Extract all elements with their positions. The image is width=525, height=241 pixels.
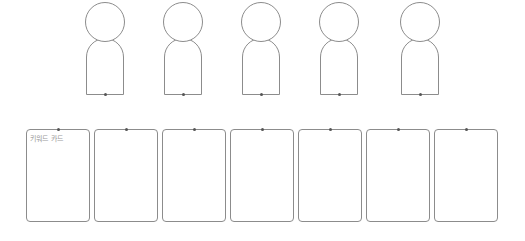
figure-head [85,2,125,42]
keyword-card-2[interactable] [94,129,158,222]
connection-point[interactable] [57,128,60,131]
keyword-card-5[interactable] [298,129,362,222]
person-figure-2[interactable] [160,0,206,98]
connection-point[interactable] [261,128,264,131]
connection-point[interactable] [260,93,263,96]
figure-body [401,38,439,95]
figure-body [86,38,124,95]
connection-point[interactable] [125,128,128,131]
figure-body [164,38,202,95]
figure-head [163,2,203,42]
figure-head [319,2,359,42]
figure-head [400,2,440,42]
connection-point[interactable] [193,128,196,131]
keyword-card-4[interactable] [230,129,294,222]
person-figure-3[interactable] [238,0,284,98]
keyword-card-1[interactable]: 키워드 카드 [26,129,90,222]
connection-point[interactable] [329,128,332,131]
figure-body [320,38,358,95]
connection-point[interactable] [419,93,422,96]
connection-point[interactable] [338,93,341,96]
figure-head [241,2,281,42]
card-label: 키워드 카드 [30,133,63,143]
keyword-card-3[interactable] [162,129,226,222]
person-figure-4[interactable] [316,0,362,98]
connection-point[interactable] [182,93,185,96]
connection-point[interactable] [397,128,400,131]
keyword-card-7[interactable] [434,129,498,222]
person-figure-5[interactable] [397,0,443,98]
connection-point[interactable] [465,128,468,131]
connection-point[interactable] [104,93,107,96]
person-figure-1[interactable] [82,0,128,98]
figure-body [242,38,280,95]
keyword-card-6[interactable] [366,129,430,222]
